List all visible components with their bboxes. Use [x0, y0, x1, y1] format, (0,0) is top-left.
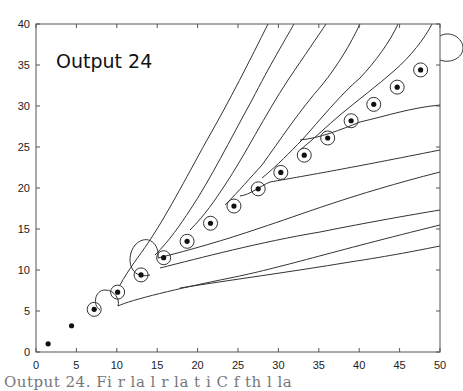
- data-point: [395, 85, 400, 90]
- x-tick-label: 35: [313, 359, 325, 371]
- data-point: [46, 341, 51, 346]
- data-point: [231, 203, 236, 208]
- data-point: [208, 221, 213, 226]
- data-point: [418, 67, 423, 72]
- data-point: [138, 272, 143, 277]
- x-tick-label: 0: [33, 359, 39, 371]
- y-tick-label: 5: [24, 305, 30, 317]
- data-point: [69, 323, 74, 328]
- y-tick-label: 15: [18, 223, 30, 235]
- data-point: [184, 239, 189, 244]
- figure-caption: Output 24. Fi r la l r la t i C f th l l…: [4, 373, 292, 391]
- data-points: [46, 63, 428, 346]
- data-point: [278, 170, 283, 175]
- data-point: [371, 102, 376, 107]
- y-tick-label: 25: [18, 141, 30, 153]
- chart-title: Output 24: [56, 50, 152, 72]
- y-tick-label: 10: [18, 264, 30, 276]
- data-point: [115, 290, 120, 295]
- x-tick-label: 40: [353, 359, 365, 371]
- y-tick-label: 40: [18, 18, 30, 30]
- y-tick-label: 35: [18, 59, 30, 71]
- x-axis-ticks: 05101520253035404550: [33, 24, 446, 371]
- x-tick-label: 25: [232, 359, 244, 371]
- data-point: [349, 118, 354, 123]
- data-point: [92, 307, 97, 312]
- x-tick-label: 10: [111, 359, 123, 371]
- x-tick-label: 20: [191, 359, 203, 371]
- data-point: [325, 135, 330, 140]
- x-tick-label: 50: [434, 359, 446, 371]
- data-point: [161, 255, 166, 260]
- y-tick-label: 30: [18, 100, 30, 112]
- y-tick-label: 0: [24, 346, 30, 358]
- y-tick-label: 20: [18, 182, 30, 194]
- x-tick-label: 5: [73, 359, 79, 371]
- x-tick-label: 15: [151, 359, 163, 371]
- x-tick-label: 45: [393, 359, 405, 371]
- data-point: [256, 186, 261, 191]
- x-tick-label: 30: [272, 359, 284, 371]
- data-point: [302, 153, 307, 158]
